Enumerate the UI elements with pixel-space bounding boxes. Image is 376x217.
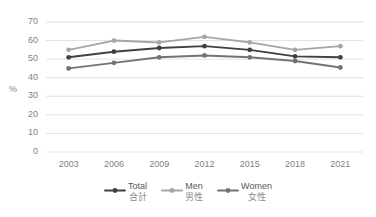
y-axis-title: % bbox=[9, 84, 17, 94]
x-axis-tick: 2003 bbox=[49, 159, 89, 169]
y-axis-tick: 10 bbox=[12, 127, 38, 137]
data-point-marker bbox=[247, 40, 252, 45]
data-point-marker bbox=[157, 46, 162, 51]
legend-label-jp: 合計 bbox=[129, 192, 147, 203]
legend-label-en: Total bbox=[128, 181, 147, 192]
x-axis-tick: 2018 bbox=[275, 159, 315, 169]
data-point-marker bbox=[112, 49, 117, 54]
y-axis-tick: 0 bbox=[12, 146, 38, 156]
legend-label-jp: 女性 bbox=[248, 192, 266, 203]
data-point-marker bbox=[157, 55, 162, 60]
x-axis-tick: 2021 bbox=[320, 159, 360, 169]
legend-marker-icon bbox=[161, 182, 183, 193]
legend-item-men[interactable]: Men男性 bbox=[161, 181, 203, 203]
data-point-marker bbox=[338, 44, 343, 49]
y-axis-tick: 50 bbox=[12, 53, 38, 63]
data-point-marker bbox=[293, 59, 298, 64]
data-point-marker bbox=[66, 47, 71, 52]
legend-item-women[interactable]: Women女性 bbox=[217, 181, 272, 203]
chart-legend: Total合計Men男性Women女性 bbox=[0, 181, 376, 203]
data-point-marker bbox=[157, 40, 162, 45]
y-axis-tick: 40 bbox=[12, 72, 38, 82]
data-point-marker bbox=[66, 55, 71, 60]
line-chart: 010203040506070 200320062009201220152018… bbox=[0, 0, 376, 217]
data-point-marker bbox=[247, 47, 252, 52]
x-axis-tick: 2015 bbox=[230, 159, 270, 169]
data-point-marker bbox=[293, 47, 298, 52]
data-point-marker bbox=[338, 55, 343, 60]
y-axis-tick: 70 bbox=[12, 16, 38, 26]
legend-marker-icon bbox=[104, 182, 126, 193]
x-axis-tick: 2006 bbox=[94, 159, 134, 169]
data-point-marker bbox=[293, 54, 298, 59]
x-axis-tick: 2009 bbox=[139, 159, 179, 169]
y-axis-tick: 60 bbox=[12, 35, 38, 45]
x-axis-tick: 2012 bbox=[185, 159, 225, 169]
data-point-marker bbox=[247, 55, 252, 60]
data-point-marker bbox=[202, 44, 207, 49]
data-point-marker bbox=[112, 38, 117, 43]
legend-marker-icon bbox=[217, 182, 239, 193]
legend-item-total[interactable]: Total合計 bbox=[104, 181, 147, 203]
data-point-marker bbox=[66, 66, 71, 71]
y-axis-tick: 20 bbox=[12, 109, 38, 119]
data-point-marker bbox=[112, 60, 117, 65]
gridlines bbox=[46, 22, 363, 152]
data-point-marker bbox=[202, 34, 207, 39]
series-lines bbox=[69, 37, 341, 69]
data-point-marker bbox=[202, 53, 207, 58]
legend-label-en: Women bbox=[241, 181, 272, 192]
legend-label-en: Men bbox=[185, 181, 203, 192]
legend-label-jp: 男性 bbox=[185, 192, 203, 203]
data-point-marker bbox=[338, 65, 343, 70]
